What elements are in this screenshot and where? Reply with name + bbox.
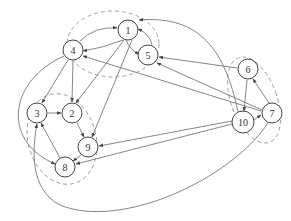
edge-8-to-3 (41, 123, 60, 158)
node-2: 2 (62, 103, 82, 123)
edge-4-to-1 (80, 28, 117, 41)
node-label: 1 (126, 25, 131, 36)
edge-1-to-9 (92, 40, 132, 137)
node-5: 5 (138, 45, 158, 65)
node-8: 8 (55, 157, 75, 177)
edge-4-to-2 (72, 61, 73, 102)
edge-10-to-7 (254, 115, 261, 120)
node-label: 3 (35, 108, 40, 119)
node-label: 10 (238, 117, 248, 128)
edge-5-to-1 (138, 29, 152, 45)
node-label: 7 (270, 108, 275, 119)
node-4: 4 (63, 40, 83, 60)
edge-9-to-8 (73, 155, 81, 161)
node-6: 6 (238, 59, 258, 79)
node-1: 1 (118, 20, 138, 40)
edge-10-to-1 (139, 20, 238, 112)
edge-1-to-5 (126, 40, 139, 54)
node-9: 9 (78, 137, 98, 157)
edge-10-to-8 (76, 124, 232, 164)
node-layer: 14532986107 (27, 20, 282, 177)
edge-7-to-4 (83, 56, 261, 111)
node-label: 6 (246, 64, 251, 75)
edge-2-to-9 (77, 123, 84, 137)
edge-10-to-9 (99, 121, 232, 146)
edge-6-to-5 (159, 57, 237, 68)
node-label: 2 (70, 108, 75, 119)
edge-7-to-6 (253, 79, 269, 103)
node-label: 8 (63, 162, 68, 173)
node-label: 9 (86, 142, 91, 153)
node-7: 7 (262, 103, 282, 123)
node-10: 10 (232, 111, 254, 133)
node-3: 3 (27, 103, 47, 123)
node-label: 4 (71, 45, 76, 56)
node-label: 5 (146, 50, 151, 61)
graph-canvas: 14532986107 (0, 0, 291, 221)
